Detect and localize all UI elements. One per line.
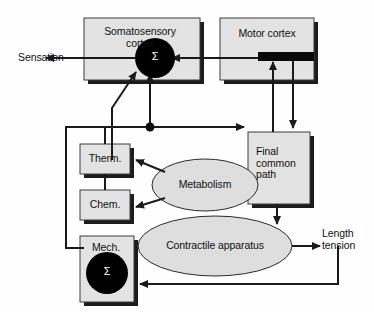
label-somatosensory-cortex: Somatosensory cortex bbox=[92, 26, 188, 49]
diagram-canvas: Somatosensory cortex Motor cortex Final … bbox=[0, 0, 374, 312]
sigma-symbol-somatosensory: Σ bbox=[141, 51, 169, 63]
label-sensation: Sensation bbox=[18, 52, 64, 64]
label-chem: Chem. bbox=[82, 199, 128, 211]
junction-dot bbox=[146, 123, 155, 132]
motor-cortex-bar bbox=[258, 52, 314, 61]
sigma-symbol-mech: Σ bbox=[93, 266, 121, 278]
label-length-tension: Length tension bbox=[322, 228, 370, 251]
label-therm: Therm. bbox=[82, 153, 128, 165]
edge-metabolism-to-chem bbox=[136, 198, 165, 207]
label-motor-cortex: Motor cortex bbox=[224, 28, 310, 40]
label-contractile-apparatus: Contractile apparatus bbox=[150, 240, 280, 252]
edge-metabolism-to-therm bbox=[136, 160, 165, 172]
label-mech: Mech. bbox=[82, 242, 130, 254]
label-metabolism: Metabolism bbox=[160, 179, 250, 191]
label-final-common-path: Final common path bbox=[256, 146, 310, 181]
